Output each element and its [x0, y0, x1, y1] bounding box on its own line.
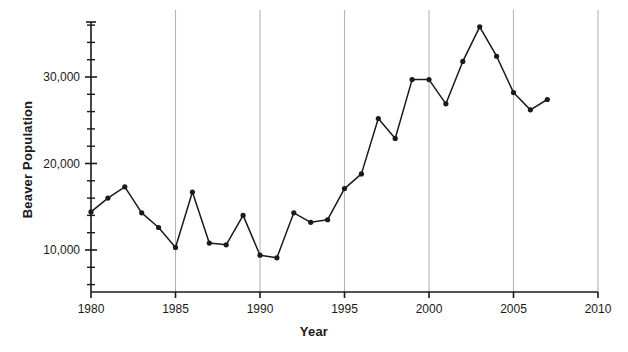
y-tick-label: 10,000 — [43, 243, 80, 257]
x-tick-label: 1985 — [162, 302, 189, 316]
data-point — [376, 116, 381, 121]
data-point — [359, 171, 364, 176]
data-point — [88, 209, 93, 214]
beaver-population-chart: Beaver Population Year 19801985199019952… — [0, 0, 628, 352]
x-tick-label: 1990 — [247, 302, 274, 316]
y-tick-label: 30,000 — [43, 70, 80, 84]
x-tick-label: 2010 — [585, 302, 612, 316]
x-tick-label: 1995 — [331, 302, 358, 316]
data-point — [545, 97, 550, 102]
data-point — [241, 213, 246, 218]
data-point — [410, 77, 415, 82]
data-line — [91, 27, 547, 258]
x-tick-label: 1980 — [78, 302, 105, 316]
data-point — [274, 255, 279, 260]
data-point — [139, 210, 144, 215]
data-point — [460, 59, 465, 64]
x-tick-label: 2000 — [416, 302, 443, 316]
plot-area: 198019851990199520002005201010,00020,000… — [0, 0, 628, 352]
data-point — [511, 90, 516, 95]
data-point — [426, 77, 431, 82]
data-point — [325, 217, 330, 222]
data-point — [224, 242, 229, 247]
data-point — [393, 136, 398, 141]
data-point — [342, 186, 347, 191]
data-point — [308, 220, 313, 225]
data-point — [156, 225, 161, 230]
data-point — [105, 196, 110, 201]
data-point — [257, 253, 262, 258]
data-point — [528, 107, 533, 112]
data-point — [291, 210, 296, 215]
data-point — [190, 189, 195, 194]
x-tick-label: 2005 — [500, 302, 527, 316]
data-point — [443, 101, 448, 106]
data-point — [494, 54, 499, 59]
y-tick-label: 20,000 — [43, 157, 80, 171]
data-point — [207, 240, 212, 245]
data-point — [477, 24, 482, 29]
data-point — [122, 184, 127, 189]
data-point — [173, 245, 178, 250]
